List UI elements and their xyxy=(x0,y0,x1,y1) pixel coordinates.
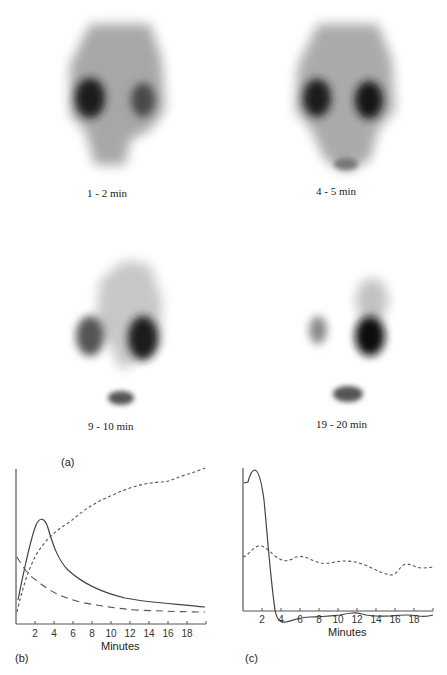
panel-label-b: (b) xyxy=(15,652,28,664)
series-solid xyxy=(244,470,433,622)
series-dashed xyxy=(243,546,433,575)
figure-canvas: 246 81012 141618 246 81012 141618 xyxy=(0,0,447,675)
bladder xyxy=(108,391,134,405)
right-kidney xyxy=(131,83,155,117)
renogram-chart-c: 246 81012 141618 xyxy=(243,468,433,625)
svg-text:6: 6 xyxy=(70,628,76,639)
svg-text:8: 8 xyxy=(316,614,322,625)
left-kidney xyxy=(76,316,104,356)
scan-label-4: 19 - 20 min xyxy=(316,418,367,430)
panel-label-c: (c) xyxy=(245,652,258,664)
scan-label-2: 4 - 5 min xyxy=(316,185,356,197)
svg-text:10: 10 xyxy=(105,628,117,639)
svg-text:18: 18 xyxy=(181,628,193,639)
scan-label-3: 9 - 10 min xyxy=(88,420,134,432)
scan-4-5-min xyxy=(295,24,395,172)
svg-text:10: 10 xyxy=(332,614,344,625)
bladder xyxy=(334,158,358,170)
svg-text:6: 6 xyxy=(297,614,303,625)
svg-text:16: 16 xyxy=(389,614,401,625)
chart-b-xlabel: Minutes xyxy=(101,640,140,652)
svg-text:2: 2 xyxy=(259,614,265,625)
bladder xyxy=(333,386,363,402)
right-kidney xyxy=(355,81,383,119)
svg-text:16: 16 xyxy=(162,628,174,639)
scan-1-2-min xyxy=(70,24,165,165)
x-tick-labels: 246 81012 141618 xyxy=(259,614,420,625)
left-kidney xyxy=(303,79,331,117)
x-tick-labels: 246 81012 141618 xyxy=(32,628,193,639)
svg-text:8: 8 xyxy=(89,628,95,639)
svg-text:12: 12 xyxy=(351,614,363,625)
series-dotted xyxy=(17,468,205,612)
svg-text:18: 18 xyxy=(408,614,420,625)
right-kidney xyxy=(355,316,385,356)
svg-text:12: 12 xyxy=(124,628,136,639)
svg-text:4: 4 xyxy=(51,628,57,639)
left-kidney xyxy=(75,78,105,118)
chart-c-xlabel: Minutes xyxy=(328,626,367,638)
svg-text:4: 4 xyxy=(278,614,284,625)
svg-text:14: 14 xyxy=(143,628,155,639)
svg-text:14: 14 xyxy=(370,614,382,625)
series-solid xyxy=(18,519,205,607)
scan-label-1: 1 - 2 min xyxy=(87,187,127,199)
right-kidney xyxy=(128,316,158,360)
panel-label-a: (a) xyxy=(61,456,74,468)
left-kidney xyxy=(309,316,327,344)
scan-19-20-min xyxy=(309,278,388,402)
scan-9-10-min xyxy=(76,260,162,405)
svg-text:2: 2 xyxy=(32,628,38,639)
renogram-chart-b: 246 81012 141618 xyxy=(16,468,206,639)
